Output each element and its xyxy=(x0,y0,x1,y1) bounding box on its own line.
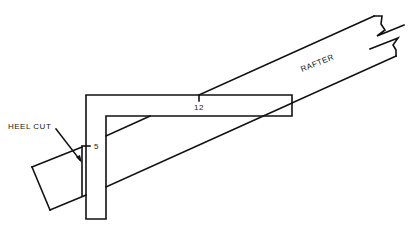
framing-square: 12 5 xyxy=(82,95,292,219)
blade-mark-label: 12 xyxy=(194,103,204,112)
framing-square-outline xyxy=(86,95,292,219)
rafter-break-lower xyxy=(370,38,398,56)
tongue-mark-label: 5 xyxy=(94,142,99,151)
heel-cut-label: HEEL CUT xyxy=(8,122,51,131)
rafter-break-upper xyxy=(374,16,404,36)
rafter-upper-edge-left xyxy=(32,147,82,167)
rafter: RAFTER xyxy=(32,16,404,210)
rafter-lower-edge-left xyxy=(50,195,86,210)
rafter-label: RAFTER xyxy=(299,52,335,73)
rafter-heel-cut-diagram: RAFTER HEEL CUT 12 5 xyxy=(0,0,411,229)
heel-cut: HEEL CUT xyxy=(8,122,82,196)
rafter-tail-end xyxy=(32,167,50,210)
rafter-upper-edge-right xyxy=(199,16,374,95)
rafter-upper-edge-mid xyxy=(106,116,150,136)
